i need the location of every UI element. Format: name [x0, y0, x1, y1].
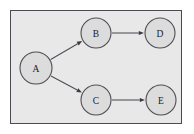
screenshot-root: ABCDE: [0, 0, 194, 134]
graph-panel: [10, 10, 182, 124]
